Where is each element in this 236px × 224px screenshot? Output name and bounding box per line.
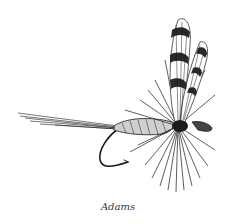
tail-fibers-icon <box>18 113 118 129</box>
hook-icon <box>100 129 128 166</box>
hook-eye-icon <box>192 121 212 131</box>
thorax-icon <box>172 120 188 132</box>
adams-fly-illustration <box>0 0 236 224</box>
figure-caption: Adams <box>0 201 236 212</box>
wings-icon <box>170 19 208 124</box>
